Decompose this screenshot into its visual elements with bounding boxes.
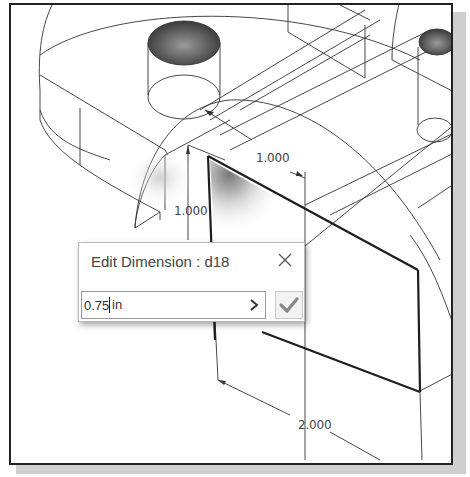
dimension-value-field[interactable]: in — [81, 291, 266, 319]
edit-dimension-dialog: Edit Dimension : d18 in — [78, 242, 305, 322]
unit-label: in — [112, 297, 122, 312]
dimension-label-bottom[interactable]: 2.000 — [298, 418, 331, 432]
chevron-right-icon[interactable] — [247, 297, 261, 313]
dimension-label-left[interactable]: 1.000 — [174, 204, 207, 218]
accept-button[interactable] — [275, 291, 303, 319]
close-icon[interactable] — [276, 251, 294, 269]
dialog-title: Edit Dimension : d18 — [91, 253, 229, 270]
dimension-label-top[interactable]: 1.000 — [256, 151, 289, 165]
text-caret — [109, 297, 110, 313]
dimension-value-input[interactable] — [84, 295, 234, 315]
checkmark-icon — [276, 303, 302, 322]
graphics-viewport[interactable]: 1.000 1.000 2.000 — [9, 3, 453, 465]
model-wireframe — [9, 3, 453, 465]
